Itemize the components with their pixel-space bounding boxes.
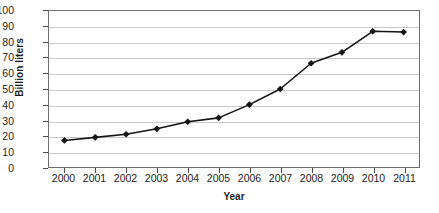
- x-axis-tick-mark: [188, 168, 189, 173]
- y-axis-tick-label: 40: [0, 99, 14, 111]
- x-axis-tick-mark: [157, 168, 158, 173]
- y-axis-tick-label: 100: [0, 4, 14, 16]
- x-axis-tick-mark: [64, 168, 65, 173]
- data-point-marker: [92, 134, 99, 141]
- data-point-marker: [215, 115, 222, 122]
- data-point-marker: [154, 125, 161, 132]
- x-axis-title: Year: [48, 191, 420, 202]
- x-axis-tick-label: 2011: [382, 172, 428, 184]
- y-axis-tick-label: 20: [0, 130, 14, 142]
- x-axis-tick-mark: [343, 168, 344, 173]
- data-point-marker: [246, 101, 253, 108]
- series-line: [64, 31, 403, 140]
- y-axis-tick-mark: [43, 168, 48, 169]
- data-point-marker: [61, 137, 68, 144]
- y-axis-tick-label: 60: [0, 67, 14, 79]
- x-axis-tick-mark: [281, 168, 282, 173]
- x-axis-tick-mark: [250, 168, 251, 173]
- x-axis-tick-mark: [126, 168, 127, 173]
- y-axis-tick-label: 70: [0, 51, 14, 63]
- x-axis-tick-mark: [95, 168, 96, 173]
- y-axis-tick-label: 0: [0, 162, 14, 174]
- y-axis-tick-label: 50: [0, 83, 14, 95]
- x-axis-tick-mark: [405, 168, 406, 173]
- line-chart: Billion liters 0102030405060708090100 20…: [0, 0, 439, 213]
- x-axis-tick-mark: [374, 168, 375, 173]
- data-point-marker: [184, 118, 191, 125]
- y-axis-tick-label: 10: [0, 146, 14, 158]
- x-axis-tick-mark: [219, 168, 220, 173]
- series-marker-group: [61, 28, 407, 144]
- y-axis-tick-label: 80: [0, 36, 14, 48]
- plot-area: [48, 10, 420, 168]
- y-axis-tick-label: 30: [0, 115, 14, 127]
- y-axis-title: Billion liters: [14, 18, 25, 118]
- data-series-group: [49, 11, 419, 167]
- y-axis-tick-label: 90: [0, 20, 14, 32]
- x-axis-tick-mark: [312, 168, 313, 173]
- data-point-marker: [400, 29, 407, 36]
- data-point-marker: [123, 131, 130, 138]
